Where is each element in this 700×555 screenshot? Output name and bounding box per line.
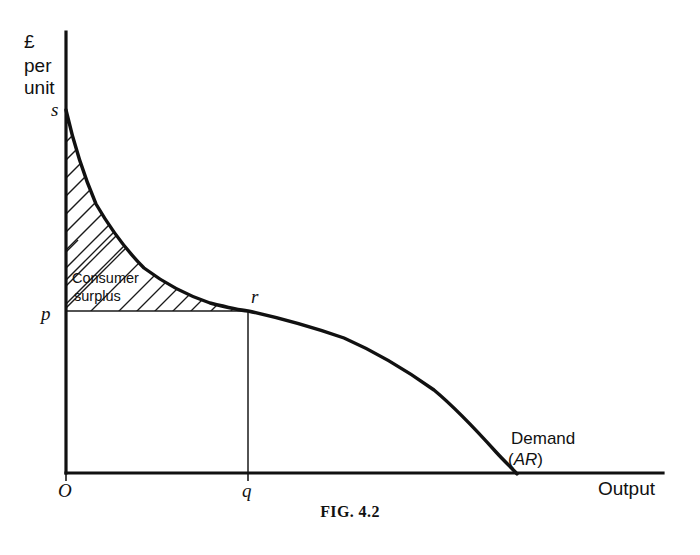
y-axis-label-currency: £ bbox=[24, 31, 35, 52]
point-label-origin: O bbox=[58, 480, 72, 501]
consumer-surplus-label-line1: Consumer bbox=[72, 270, 139, 286]
point-label-r: r bbox=[251, 286, 259, 307]
consumer-surplus-label-line2: surplus bbox=[74, 288, 121, 304]
figure-caption-text: FIG. 4.2 bbox=[320, 503, 380, 520]
demand-curve-label-ar: (AR) bbox=[508, 450, 543, 469]
consumer-surplus-hatching bbox=[0, 100, 336, 416]
x-axis-label: Output bbox=[598, 478, 656, 499]
demand-curve bbox=[66, 110, 517, 474]
figure-caption: FIG. 4.2 bbox=[0, 503, 700, 521]
demand-curve-label: Demand bbox=[511, 429, 575, 448]
point-label-p: p bbox=[39, 303, 51, 324]
y-axis-label-per: per bbox=[24, 55, 52, 76]
figure-container: £ per unit Output s p r O q Consumer sur… bbox=[0, 0, 700, 555]
point-label-q: q bbox=[242, 480, 252, 501]
consumer-surplus-diagram: £ per unit Output s p r O q Consumer sur… bbox=[0, 0, 700, 555]
point-label-s: s bbox=[51, 99, 58, 120]
y-axis-label-unit: unit bbox=[24, 77, 55, 98]
